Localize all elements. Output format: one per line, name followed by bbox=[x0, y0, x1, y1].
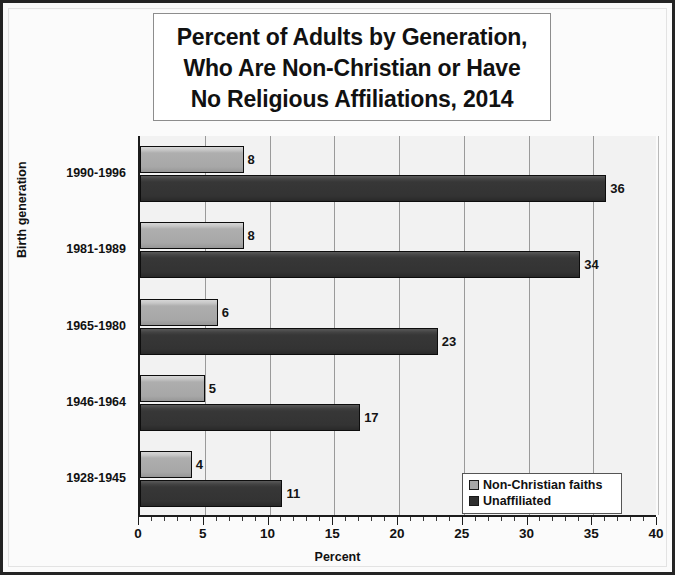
x-axis-tick-label-20: 20 bbox=[389, 526, 404, 541]
x-tick-minor-11 bbox=[280, 517, 281, 521]
bar-1946-1964-non-christian-faiths[interactable] bbox=[140, 375, 205, 402]
x-axis-tick-label-0: 0 bbox=[134, 526, 142, 541]
x-axis-tick-label-40: 40 bbox=[648, 526, 663, 541]
x-tick-minor-37 bbox=[617, 517, 618, 521]
bar-1990-1996-non-christian-faiths[interactable] bbox=[140, 146, 244, 173]
legend-label-unaffiliated: Unaffiliated bbox=[483, 493, 551, 509]
bar-value-label: 6 bbox=[222, 299, 229, 326]
x-tick-minor-28 bbox=[501, 517, 502, 521]
x-tick-minor-31 bbox=[539, 517, 540, 521]
x-tick-minor-29 bbox=[514, 517, 515, 521]
x-tick-minor-19 bbox=[384, 517, 385, 521]
x-tick-minor-4 bbox=[190, 517, 191, 521]
x-tick-major-20 bbox=[397, 517, 398, 525]
bar-value-label: 11 bbox=[286, 480, 300, 507]
bars-layer bbox=[140, 136, 656, 515]
chart-screenshot: Percent of Adults by Generation, Who Are… bbox=[0, 0, 675, 575]
legend-swatch-icon-non-christian-faiths bbox=[469, 480, 479, 490]
bar-1981-1989-non-christian-faiths[interactable] bbox=[140, 222, 244, 249]
plot-area bbox=[138, 136, 656, 517]
x-tick-major-35 bbox=[591, 517, 592, 525]
x-tick-major-15 bbox=[332, 517, 333, 525]
x-tick-major-10 bbox=[268, 517, 269, 525]
x-tick-major-25 bbox=[462, 517, 463, 525]
legend-item-non-christian-faiths[interactable]: Non-Christian faiths bbox=[469, 477, 615, 493]
x-tick-minor-1 bbox=[151, 517, 152, 521]
bar-value-label: 17 bbox=[364, 404, 378, 431]
bar-value-label: 4 bbox=[196, 451, 203, 478]
x-tick-minor-23 bbox=[436, 517, 437, 521]
x-tick-minor-39 bbox=[643, 517, 644, 521]
legend-item-unaffiliated[interactable]: Unaffiliated bbox=[469, 493, 615, 509]
chart-title-line-3: No Religious Affiliations, 2014 bbox=[191, 84, 514, 115]
x-axis-tick-label-30: 30 bbox=[519, 526, 534, 541]
x-tick-minor-2 bbox=[164, 517, 165, 521]
bar-value-label: 23 bbox=[442, 328, 456, 355]
legend-label-non-christian-faiths: Non-Christian faiths bbox=[483, 477, 602, 493]
x-axis-tick-label-15: 15 bbox=[325, 526, 340, 541]
bar-1928-1945-unaffiliated[interactable] bbox=[140, 480, 282, 507]
bar-1965-1980-non-christian-faiths[interactable] bbox=[140, 299, 218, 326]
x-tick-minor-16 bbox=[345, 517, 346, 521]
x-tick-minor-18 bbox=[371, 517, 372, 521]
x-tick-minor-14 bbox=[319, 517, 320, 521]
x-axis-tick-label-25: 25 bbox=[454, 526, 469, 541]
y-axis-tick-label-1965-1980: 1965-1980 bbox=[66, 319, 126, 333]
x-tick-minor-13 bbox=[306, 517, 307, 521]
x-tick-minor-34 bbox=[578, 517, 579, 521]
x-tick-minor-27 bbox=[488, 517, 489, 521]
x-tick-minor-9 bbox=[255, 517, 256, 521]
x-tick-minor-7 bbox=[229, 517, 230, 521]
legend-swatch-icon-unaffiliated bbox=[469, 496, 479, 506]
bar-1990-1996-unaffiliated[interactable] bbox=[140, 175, 606, 202]
bar-value-label: 8 bbox=[248, 146, 255, 173]
bar-value-label: 5 bbox=[209, 375, 216, 402]
x-tick-minor-36 bbox=[604, 517, 605, 521]
bar-1928-1945-non-christian-faiths[interactable] bbox=[140, 451, 192, 478]
chart-legend[interactable]: Non-Christian faiths Unaffiliated bbox=[462, 473, 622, 514]
x-axis-tick-label-5: 5 bbox=[199, 526, 207, 541]
y-axis-tick-label-1981-1989: 1981-1989 bbox=[66, 242, 126, 256]
x-tick-major-5 bbox=[203, 517, 204, 525]
bar-value-label: 36 bbox=[610, 175, 624, 202]
x-tick-minor-12 bbox=[293, 517, 294, 521]
x-axis-tick-label-10: 10 bbox=[260, 526, 275, 541]
x-tick-major-40 bbox=[656, 517, 657, 525]
y-axis-tick-label-1928-1945: 1928-1945 bbox=[66, 471, 126, 485]
x-tick-minor-6 bbox=[216, 517, 217, 521]
x-axis-tick-label-35: 35 bbox=[584, 526, 599, 541]
chart-title-line-2: Who Are Non-Christian or Have bbox=[183, 53, 520, 84]
x-tick-minor-38 bbox=[630, 517, 631, 521]
x-tick-minor-21 bbox=[410, 517, 411, 521]
x-tick-minor-32 bbox=[552, 517, 553, 521]
x-axis-title: Percent bbox=[3, 550, 672, 564]
x-tick-minor-8 bbox=[242, 517, 243, 521]
y-axis-tick-label-1946-1964: 1946-1964 bbox=[66, 395, 126, 409]
x-tick-major-30 bbox=[527, 517, 528, 525]
bar-1946-1964-unaffiliated[interactable] bbox=[140, 404, 360, 431]
x-tick-minor-26 bbox=[475, 517, 476, 521]
x-tick-minor-3 bbox=[177, 517, 178, 521]
x-tick-minor-24 bbox=[449, 517, 450, 521]
x-tick-minor-17 bbox=[358, 517, 359, 521]
x-tick-minor-33 bbox=[565, 517, 566, 521]
x-tick-minor-22 bbox=[423, 517, 424, 521]
bar-value-label: 8 bbox=[248, 222, 255, 249]
bar-1981-1989-unaffiliated[interactable] bbox=[140, 251, 580, 278]
x-axis-ticks bbox=[138, 517, 656, 525]
bar-value-label: 34 bbox=[584, 251, 598, 278]
y-axis-tick-label-1990-1996: 1990-1996 bbox=[66, 166, 126, 180]
y-axis-title: Birth generation bbox=[15, 161, 29, 258]
chart-title-line-1: Percent of Adults by Generation, bbox=[177, 22, 528, 53]
x-tick-major-0 bbox=[138, 517, 139, 525]
bar-1965-1980-unaffiliated[interactable] bbox=[140, 328, 438, 355]
gridline-40 bbox=[658, 136, 659, 515]
chart-title-box: Percent of Adults by Generation, Who Are… bbox=[153, 13, 551, 121]
